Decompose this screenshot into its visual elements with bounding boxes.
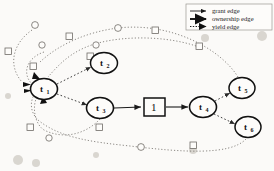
yield-edge-t1-t3 xyxy=(57,94,87,105)
node-t4-subscript: 4 xyxy=(206,107,209,113)
node-t3-subscript: 3 xyxy=(103,108,106,114)
legend-label-ownership: ownership edge xyxy=(212,15,254,22)
yield-edge-t1-t2 xyxy=(57,67,91,84)
node-t1-label: t xyxy=(40,84,43,94)
waypoint-circle xyxy=(32,22,39,29)
waypoint-square xyxy=(5,48,11,54)
node-t3-label: t xyxy=(96,103,99,113)
waypoint-square xyxy=(152,27,158,33)
node-t5-subscript: 5 xyxy=(245,88,248,94)
node-t1-subscript: 1 xyxy=(47,89,50,95)
node-t3[interactable]: t 3 xyxy=(87,98,114,119)
waypoint-square xyxy=(96,124,102,130)
node-t6-subscript: 6 xyxy=(251,127,254,133)
grant-edge-t3-r1 xyxy=(114,107,141,108)
node-t4-label: t xyxy=(199,102,202,112)
waypoint-circle xyxy=(138,144,145,151)
waypoint-square xyxy=(66,33,72,39)
node-t2-subscript: 2 xyxy=(107,63,110,69)
yield-edge-t4-t5 xyxy=(215,93,230,101)
yield-edge-t4-t6 xyxy=(214,114,235,124)
resource-node-1[interactable]: 1 xyxy=(144,98,165,116)
node-t5-label: t xyxy=(238,83,241,93)
figure-canvas: t 1 t 2 t 3 t 4 t 5 xyxy=(0,0,274,171)
node-t2-label: t xyxy=(100,58,103,68)
node-t6[interactable]: t 6 xyxy=(235,117,261,138)
resource-node-1-label: 1 xyxy=(151,101,157,113)
waypoint-square xyxy=(190,142,196,148)
legend-label-yield: yield edge xyxy=(212,23,239,30)
graph-svg: t 1 t 2 t 3 t 4 t 5 xyxy=(0,0,274,171)
node-t2[interactable]: t 2 xyxy=(91,53,118,74)
node-t4[interactable]: t 4 xyxy=(190,97,217,118)
waypoint-square xyxy=(30,63,36,69)
waypoint-circle xyxy=(115,25,122,32)
waypoint-circle xyxy=(39,42,45,48)
yield-path-inner-top xyxy=(48,38,196,77)
node-t1[interactable]: t 1 xyxy=(31,79,58,100)
waypoint-square xyxy=(27,124,33,130)
waypoint-circle xyxy=(46,135,52,141)
node-t6-label: t xyxy=(244,122,247,132)
yield-path-left-outer xyxy=(14,30,32,82)
legend-label-grant: grant edge xyxy=(212,7,240,14)
waypoint-square xyxy=(196,43,202,49)
node-t5[interactable]: t 5 xyxy=(229,78,255,99)
waypoint-circle xyxy=(93,42,99,48)
legend: grant edge ownership edge yield edge xyxy=(186,4,272,30)
